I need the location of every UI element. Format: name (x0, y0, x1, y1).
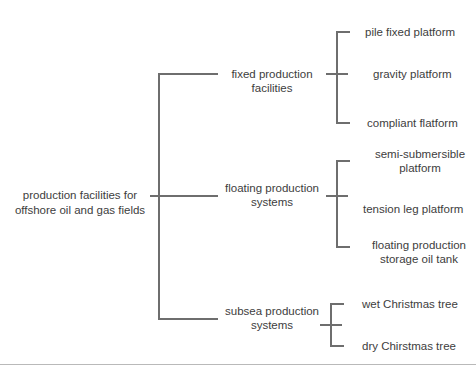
group-subsea-bracket-spine (330, 303, 332, 347)
leaf-label-compliant-flatform: compliant flatform (367, 116, 475, 130)
leaf-label-semi-submersible-platform: semi-submersible platform (365, 147, 475, 175)
leaf-label-floating-production-storage-oil-tank: floating production storage oil tank (363, 238, 475, 266)
group-floating-bracket-spine (336, 160, 338, 248)
level1-arm-fixed (158, 73, 218, 75)
group-subsea-arm-1 (330, 303, 344, 305)
leaf-label-gravity-platform: gravity platform (373, 67, 473, 81)
group-floating-arm-3 (336, 246, 350, 248)
diagram-canvas: production facilities for offshore oil a… (0, 0, 476, 377)
group-fixed-bracket-spine (336, 31, 338, 124)
bottom-divider-rule (0, 364, 476, 365)
level1-arm-floating (158, 195, 218, 197)
root-node-label: production facilities for offshore oil a… (10, 188, 150, 218)
group-floating-arm-1 (336, 160, 350, 162)
level1-arm-subsea (158, 318, 218, 320)
leaf-label-wet-christmas-tree: wet Christmas tree (362, 297, 476, 311)
branch-label-floating-production-systems: floating production systems (216, 181, 328, 209)
branch-label-subsea-production-systems: subsea production systems (216, 304, 328, 332)
branch-label-fixed-production-facilities: fixed production facilities (216, 67, 328, 95)
leaf-label-tension-leg-platform: tension leg platform (363, 202, 475, 216)
group-fixed-arm-3 (336, 122, 350, 124)
group-fixed-arm-1 (336, 31, 350, 33)
group-subsea-arm-2 (330, 345, 344, 347)
leaf-label-dry-christmas-tree: dry Chirstmas tree (362, 339, 476, 353)
leaf-label-pile-fixed-platform: pile fixed platform (365, 25, 473, 39)
